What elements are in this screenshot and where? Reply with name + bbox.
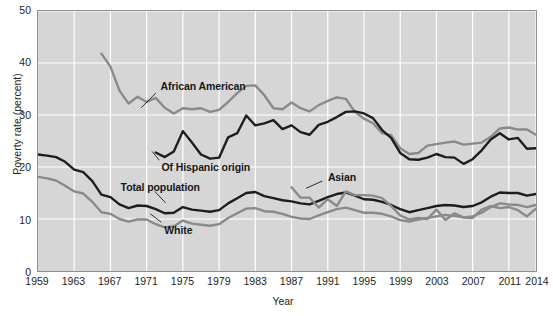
x-tick-label: 2014	[517, 276, 553, 287]
x-tick-label: 1963	[53, 276, 93, 287]
x-tick-label: 1971	[126, 276, 166, 287]
x-tick-label: 1959	[17, 276, 57, 287]
plot-area	[37, 10, 537, 272]
x-tick-label: 2003	[417, 276, 457, 287]
series-label-asian: Asian	[328, 171, 356, 183]
x-axis-title: Year	[253, 295, 313, 307]
series-label-african-american: African American	[161, 80, 246, 92]
x-tick-label: 1987	[272, 276, 312, 287]
x-tick-label: 1983	[235, 276, 275, 287]
x-tick-label: 1979	[199, 276, 239, 287]
y-tick-label: 50	[3, 5, 31, 15]
x-tick-label: 1999	[381, 276, 421, 287]
x-tick-label: 1967	[90, 276, 130, 287]
x-tick-label: 2007	[453, 276, 493, 287]
series-label-total-population: Total population	[121, 181, 200, 193]
y-axis-title: Poverty rate (percent)	[11, 54, 23, 194]
y-tick-label: 10	[3, 215, 31, 225]
x-tick-label: 1991	[308, 276, 348, 287]
x-tick-label: 1995	[344, 276, 384, 287]
x-tick-label: 1975	[163, 276, 203, 287]
series-lines	[38, 11, 536, 271]
series-label-of-hispanic-origin: Of Hispanic origin	[162, 161, 251, 173]
series-label-white: White	[164, 224, 192, 236]
